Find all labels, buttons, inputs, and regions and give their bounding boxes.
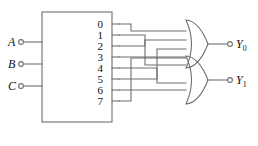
terminal-a[interactable] xyxy=(19,40,24,45)
circuit-canvas: A B C 0 1 2 3 4 5 6 7 Y0 Y1 xyxy=(0,0,258,146)
pin-label-7: 7 xyxy=(98,95,104,107)
wire-pin-4-to-y1 xyxy=(119,68,186,83)
input-label-c: C xyxy=(8,79,17,93)
terminal-y0[interactable] xyxy=(228,42,233,47)
wire-pin-0-to-y0 xyxy=(119,24,186,31)
input-label-b: B xyxy=(8,57,16,71)
circuit-diagram: A B C 0 1 2 3 4 5 6 7 Y0 Y1 xyxy=(0,0,258,146)
output-label-y1: Y1 xyxy=(236,73,247,89)
output-label-y0: Y0 xyxy=(236,37,247,53)
input-label-a: A xyxy=(7,35,16,49)
terminal-y1[interactable] xyxy=(228,78,233,83)
terminal-c[interactable] xyxy=(19,84,24,89)
wire-pin-5-to-y0 xyxy=(119,49,186,79)
terminal-b[interactable] xyxy=(19,62,24,67)
wire-pin-2-to-y0 xyxy=(119,40,186,46)
